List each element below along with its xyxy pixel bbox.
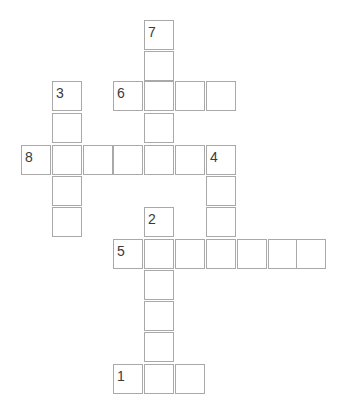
crossword-cell[interactable] — [144, 239, 174, 269]
crossword-cell[interactable] — [113, 145, 143, 175]
cell-letter — [145, 52, 173, 80]
crossword-cell[interactable] — [206, 239, 236, 269]
crossword-cell[interactable] — [144, 364, 174, 394]
cell-letter — [176, 146, 204, 174]
cell-letter — [207, 82, 235, 110]
cell-letter — [207, 146, 235, 174]
crossword-cell-3[interactable]: 3 — [52, 81, 82, 111]
cell-letter — [176, 240, 204, 268]
cell-letter — [145, 208, 173, 236]
crossword-cell[interactable] — [144, 113, 174, 143]
crossword-cell-6[interactable]: 6 — [113, 81, 143, 111]
cell-letter — [207, 177, 235, 205]
crossword-cell-4[interactable]: 4 — [206, 145, 236, 175]
cell-letter — [145, 365, 173, 393]
cell-letter — [84, 146, 112, 174]
crossword-cell-5[interactable]: 5 — [113, 239, 143, 269]
cell-letter — [53, 146, 81, 174]
crossword-cell[interactable] — [175, 81, 205, 111]
crossword-cell-8[interactable]: 8 — [21, 145, 51, 175]
cell-letter — [145, 271, 173, 299]
cell-letter — [176, 82, 204, 110]
crossword-cell[interactable] — [52, 207, 82, 237]
cell-letter — [53, 177, 81, 205]
cell-letter — [114, 146, 142, 174]
crossword-cell[interactable] — [206, 81, 236, 111]
crossword-cell[interactable] — [268, 239, 298, 269]
crossword-cell-1[interactable]: 1 — [113, 364, 143, 394]
crossword-grid: 73684251 — [0, 0, 344, 420]
crossword-cell[interactable] — [83, 145, 113, 175]
crossword-cell[interactable] — [206, 207, 236, 237]
crossword-cell[interactable] — [175, 145, 205, 175]
cell-letter — [22, 146, 50, 174]
crossword-cell[interactable] — [52, 145, 82, 175]
cell-letter — [207, 240, 235, 268]
crossword-cell[interactable] — [144, 301, 174, 331]
crossword-cell[interactable] — [175, 239, 205, 269]
cell-letter — [145, 21, 173, 49]
cell-letter — [145, 82, 173, 110]
crossword-cell[interactable] — [237, 239, 267, 269]
crossword-cell[interactable] — [296, 239, 326, 269]
cell-letter — [114, 82, 142, 110]
crossword-cell[interactable] — [175, 364, 205, 394]
crossword-cell[interactable] — [206, 176, 236, 206]
cell-letter — [145, 240, 173, 268]
crossword-cell[interactable] — [52, 176, 82, 206]
cell-letter — [145, 114, 173, 142]
cell-letter — [114, 240, 142, 268]
cell-letter — [238, 240, 266, 268]
cell-letter — [207, 208, 235, 236]
crossword-cell[interactable] — [52, 113, 82, 143]
crossword-cell[interactable] — [144, 332, 174, 362]
cell-letter — [114, 365, 142, 393]
crossword-cell[interactable] — [144, 81, 174, 111]
crossword-cell[interactable] — [144, 270, 174, 300]
cell-letter — [53, 208, 81, 236]
crossword-cell[interactable] — [144, 145, 174, 175]
cell-letter — [176, 365, 204, 393]
cell-letter — [145, 146, 173, 174]
cell-letter — [269, 240, 297, 268]
cell-letter — [53, 82, 81, 110]
crossword-cell-7[interactable]: 7 — [144, 20, 174, 50]
crossword-cell[interactable] — [144, 51, 174, 81]
cell-letter — [53, 114, 81, 142]
cell-letter — [297, 240, 325, 268]
cell-letter — [145, 333, 173, 361]
cell-letter — [145, 302, 173, 330]
crossword-cell-2[interactable]: 2 — [144, 207, 174, 237]
